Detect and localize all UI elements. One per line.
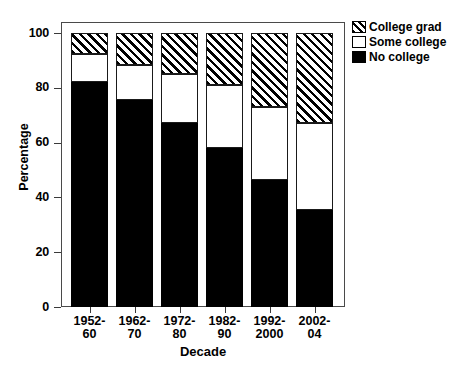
x-axis-title: Decade [61, 344, 345, 359]
segment-college-grad [206, 33, 243, 85]
x-tick-mark [270, 307, 271, 313]
y-tick-label: 0 [42, 301, 49, 314]
x-tick-mark [315, 307, 316, 313]
y-axis-title: Percentage [17, 97, 31, 217]
diagonal-hatch-swatch-icon [352, 21, 366, 33]
y-tick-label: 100 [29, 27, 49, 40]
segment-some-college [296, 123, 333, 209]
x-tick-mark [135, 307, 136, 313]
bar-group [71, 33, 108, 307]
bar-group [116, 33, 153, 307]
segment-some-college [116, 65, 153, 101]
x-tick-label: 2002- 04 [283, 315, 347, 340]
legend-item-no-college: No college [352, 50, 460, 64]
segment-college-grad [116, 33, 153, 65]
segment-college-grad [71, 33, 108, 54]
legend-item-some-college: Some college [352, 35, 460, 49]
segment-no-college [206, 148, 243, 307]
legend-label: Some college [369, 36, 446, 48]
legend-label: No college [369, 51, 430, 63]
segment-some-college [161, 74, 198, 123]
y-tick-mark [54, 88, 61, 89]
y-tick-label: 80 [35, 81, 49, 94]
solid-black-swatch-icon [352, 51, 366, 63]
y-tick-mark [54, 33, 61, 34]
segment-some-college [251, 107, 288, 180]
segment-college-grad [251, 33, 288, 107]
y-tick-mark [54, 307, 61, 308]
y-tick-label: 40 [35, 191, 49, 204]
legend-label: College grad [369, 21, 442, 33]
x-tick-label-line1: 2002- [283, 315, 347, 328]
segment-no-college [296, 210, 333, 307]
white-outlined-swatch-icon [352, 36, 366, 48]
y-tick-mark [54, 252, 61, 253]
segment-no-college [71, 82, 108, 307]
y-tick-label: 60 [35, 136, 49, 149]
segment-no-college [161, 123, 198, 307]
x-tick-mark [225, 307, 226, 313]
y-tick-mark [54, 197, 61, 198]
bar-group [161, 33, 198, 307]
bar-group [251, 33, 288, 307]
chart-legend: College grad Some college No college [352, 20, 460, 65]
segment-some-college [206, 85, 243, 148]
segment-some-college [71, 54, 108, 83]
stacked-bar-chart-figure: 100 80 60 40 20 0 Percentage [0, 0, 463, 369]
plot-area [61, 33, 345, 307]
bar-group [206, 33, 243, 307]
x-tick-label-line2: 04 [283, 328, 347, 341]
segment-college-grad [296, 33, 333, 123]
segment-no-college [251, 180, 288, 307]
y-tick-mark [54, 143, 61, 144]
segment-no-college [116, 100, 153, 307]
bar-group [296, 33, 333, 307]
x-tick-mark [180, 307, 181, 313]
legend-item-college-grad: College grad [352, 20, 460, 34]
segment-college-grad [161, 33, 198, 74]
x-tick-mark [90, 307, 91, 313]
y-tick-label: 20 [35, 246, 49, 259]
